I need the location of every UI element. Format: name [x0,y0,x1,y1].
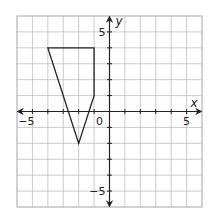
x-tick-label: 5 [183,115,190,128]
y-axis-label: y [115,14,124,28]
coordinate-plane: −5055−5 x y [0,0,210,218]
y-tick-label: −5 [89,185,105,198]
y-tick-label: 5 [99,26,106,39]
x-tick-label: 0 [96,115,103,128]
x-axis-label: x [189,96,198,110]
x-tick-label: −5 [18,115,34,128]
